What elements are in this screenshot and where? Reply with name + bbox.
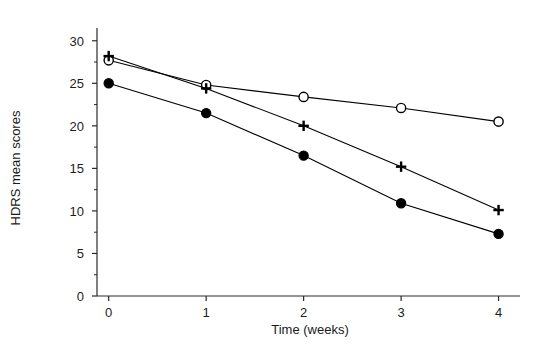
x-tick-label: 0 — [105, 305, 112, 320]
x-tick-label: 4 — [495, 305, 502, 320]
x-tick-label: 3 — [397, 305, 404, 320]
y-tick-label: 20 — [48, 118, 84, 133]
y-tick-label: 25 — [48, 76, 84, 91]
x-tick-label: 1 — [203, 305, 210, 320]
chart-figure: 05101520253001234 Time (weeks) HDRS mean… — [0, 0, 543, 357]
y-tick-label: 0 — [48, 289, 84, 304]
marker-filled-circle — [202, 108, 211, 117]
y-tick-label: 30 — [48, 33, 84, 48]
y-tick-label: 10 — [48, 203, 84, 218]
series-filled-circle-series — [104, 79, 503, 239]
series-line — [109, 56, 499, 210]
x-tick-label: 2 — [300, 305, 307, 320]
marker-filled-circle — [396, 199, 405, 208]
y-axis-title: HDRS mean scores — [8, 111, 23, 226]
x-axis-title: Time (weeks) — [271, 322, 349, 337]
marker-filled-circle — [299, 151, 308, 160]
series-plus-series — [103, 51, 503, 215]
marker-open-circle — [299, 92, 308, 101]
data-series — [103, 51, 503, 239]
marker-open-circle — [494, 117, 503, 126]
y-tick-label: 15 — [48, 161, 84, 176]
marker-filled-circle — [104, 79, 113, 88]
marker-filled-circle — [494, 229, 503, 238]
axes — [92, 28, 520, 301]
series-open-circle-series — [104, 56, 503, 126]
marker-open-circle — [396, 103, 405, 112]
y-tick-label: 5 — [48, 246, 84, 261]
series-line — [109, 60, 499, 121]
